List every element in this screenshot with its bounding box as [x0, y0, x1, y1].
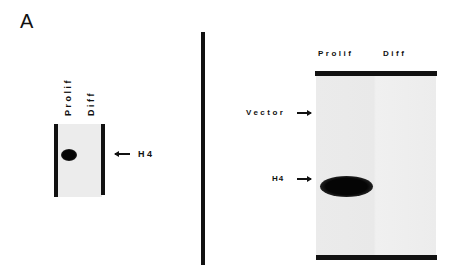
panel-divider	[201, 32, 205, 265]
left-gel-bar-left	[54, 124, 58, 197]
left-gel-bar-right	[101, 124, 105, 195]
left-h4-label: H4	[138, 149, 155, 159]
left-gel	[58, 124, 102, 197]
left-lane-label-diff: Diff	[86, 91, 96, 116]
panel-label: A	[20, 10, 33, 33]
right-h4-band	[320, 176, 373, 197]
right-h4-label: H4	[272, 174, 284, 183]
left-h4-arrow	[115, 153, 130, 155]
right-gel	[316, 75, 436, 256]
right-vector-label: Vector	[246, 108, 285, 117]
right-h4-arrow	[297, 178, 311, 180]
right-vector-arrow	[297, 112, 311, 114]
left-h4-band	[61, 149, 77, 161]
right-gel-bar-bottom	[316, 255, 437, 260]
right-lane-label-diff: Diff	[383, 49, 406, 58]
left-lane-label-prolif: Prolif	[63, 78, 73, 116]
right-gel-bar-top	[315, 71, 437, 76]
right-lane-label-prolif: Prolif	[318, 49, 353, 58]
